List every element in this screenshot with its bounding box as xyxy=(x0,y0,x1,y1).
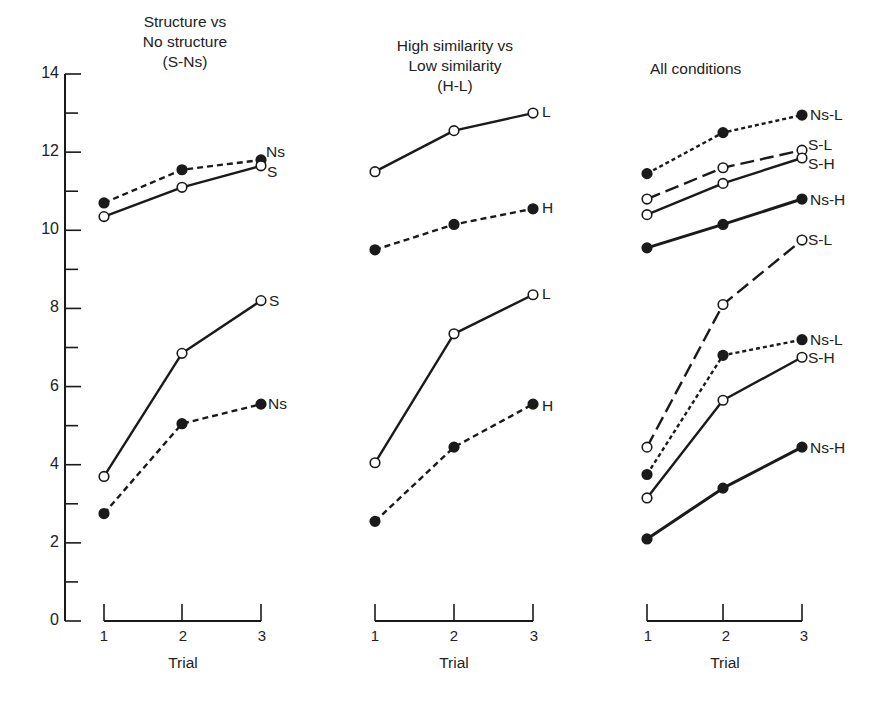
p2-series-label-h-upper: H xyxy=(542,199,553,217)
p3-series-line-s-l-upper xyxy=(647,150,802,199)
open-circle-marker-icon xyxy=(797,352,807,362)
p2-x-tick-1: 1 xyxy=(365,627,385,644)
p3-series-label-nsl-lower: Ns-L xyxy=(810,331,843,349)
p2-x-tick-2: 2 xyxy=(444,627,464,644)
open-circle-marker-icon xyxy=(256,296,266,306)
open-circle-marker-icon xyxy=(642,442,652,452)
p3-series-label-sh-upper: S-H xyxy=(808,155,835,173)
p1-x-tick-2: 2 xyxy=(173,627,193,644)
filled-circle-marker-icon xyxy=(99,198,109,208)
p3-series-label-sl-lower: S-L xyxy=(808,231,832,249)
p2-x-tick-3: 3 xyxy=(524,627,544,644)
y-tick-label-2: 2 xyxy=(19,533,59,551)
p3-x-label: Trial xyxy=(695,654,755,672)
open-circle-marker-icon xyxy=(642,210,652,220)
y-tick-label-10: 10 xyxy=(19,220,59,238)
p2-series-label-l-upper: L xyxy=(542,103,551,121)
p1-series-line-s-lower xyxy=(104,301,261,477)
filled-circle-marker-icon xyxy=(528,204,538,214)
p3-x-tick-1: 1 xyxy=(638,627,658,644)
filled-circle-marker-icon xyxy=(449,220,459,230)
open-circle-marker-icon xyxy=(718,300,728,310)
p1-series-label-s-lower: S xyxy=(269,292,279,310)
filled-circle-marker-icon xyxy=(449,442,459,452)
filled-circle-marker-icon xyxy=(642,243,652,253)
y-tick-label-14: 14 xyxy=(19,64,59,82)
p2-series-label-l-lower: L xyxy=(542,285,551,303)
p1-x-tick-3: 3 xyxy=(252,627,272,644)
p2-series-line-h-lower xyxy=(375,404,533,521)
filled-circle-marker-icon xyxy=(370,245,380,255)
p3-series-line-s-h-lower xyxy=(647,357,802,498)
open-circle-marker-icon xyxy=(642,194,652,204)
open-circle-marker-icon xyxy=(718,163,728,173)
panel-3-title: All conditions xyxy=(650,59,800,79)
open-circle-marker-icon xyxy=(642,493,652,503)
filled-circle-marker-icon xyxy=(642,470,652,480)
panel-1-title: Structure vs No structure (S-Ns) xyxy=(110,12,260,72)
p3-series-label-nsl-upper: Ns-L xyxy=(810,106,843,124)
open-circle-marker-icon xyxy=(528,108,538,118)
filled-circle-marker-icon xyxy=(256,399,266,409)
filled-circle-marker-icon xyxy=(99,509,109,519)
open-circle-marker-icon xyxy=(256,161,266,171)
filled-circle-marker-icon xyxy=(797,110,807,120)
p2-series-line-l-upper xyxy=(375,113,533,172)
p3-series-label-sh-lower: S-H xyxy=(808,349,835,367)
p3-x-tick-2: 2 xyxy=(716,627,736,644)
open-circle-marker-icon xyxy=(99,472,109,482)
filled-circle-marker-icon xyxy=(718,220,728,230)
open-circle-marker-icon xyxy=(718,179,728,189)
filled-circle-marker-icon xyxy=(642,169,652,179)
open-circle-marker-icon xyxy=(449,329,459,339)
p1-series-label-s-upper: S xyxy=(267,163,277,181)
y-tick-label-4: 4 xyxy=(19,455,59,473)
p3-series-label-nsh-lower: Ns-H xyxy=(810,439,845,457)
filled-circle-marker-icon xyxy=(718,483,728,493)
open-circle-marker-icon xyxy=(177,349,187,359)
filled-circle-marker-icon xyxy=(177,165,187,175)
filled-circle-marker-icon xyxy=(177,419,187,429)
open-circle-marker-icon xyxy=(370,458,380,468)
open-circle-marker-icon xyxy=(528,290,538,300)
filled-circle-marker-icon xyxy=(642,534,652,544)
p1-x-tick-1: 1 xyxy=(94,627,114,644)
filled-circle-marker-icon xyxy=(718,351,728,361)
filled-circle-marker-icon xyxy=(718,128,728,138)
figure: Structure vs No structure (S-Ns) High si… xyxy=(0,0,889,704)
open-circle-marker-icon xyxy=(177,183,187,193)
p1-series-label-ns-upper: Ns xyxy=(266,143,285,161)
open-circle-marker-icon xyxy=(797,235,807,245)
p2-x-label: Trial xyxy=(424,654,484,672)
p1-series-label-ns-lower: Ns xyxy=(268,395,287,413)
filled-circle-marker-icon xyxy=(528,399,538,409)
p2-series-label-h-lower: H xyxy=(542,397,553,415)
filled-circle-marker-icon xyxy=(797,442,807,452)
plot-canvas xyxy=(0,0,889,704)
open-circle-marker-icon xyxy=(797,153,807,163)
open-circle-marker-icon xyxy=(718,395,728,405)
p3-x-tick-3: 3 xyxy=(794,627,814,644)
open-circle-marker-icon xyxy=(449,126,459,136)
p2-series-line-l-lower xyxy=(375,295,533,463)
panel-2-title: High similarity vs Low similarity (H-L) xyxy=(370,36,540,96)
p3-series-label-sl-upper: S-L xyxy=(808,136,832,154)
y-tick-label-6: 6 xyxy=(19,377,59,395)
p3-series-label-nsh-upper: Ns-H xyxy=(810,191,845,209)
filled-circle-marker-icon xyxy=(797,194,807,204)
y-tick-label-12: 12 xyxy=(19,142,59,160)
y-tick-label-8: 8 xyxy=(19,298,59,316)
open-circle-marker-icon xyxy=(99,212,109,222)
p1-x-label: Trial xyxy=(153,654,213,672)
y-tick-label-0: 0 xyxy=(19,611,59,629)
filled-circle-marker-icon xyxy=(370,517,380,527)
open-circle-marker-icon xyxy=(370,167,380,177)
filled-circle-marker-icon xyxy=(797,335,807,345)
